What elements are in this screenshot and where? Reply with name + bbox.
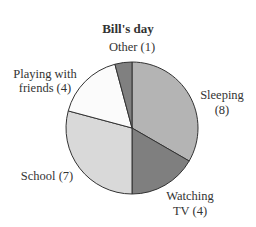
label-playing-line1: Playing with [10, 67, 80, 81]
label-other: Other (1) [97, 40, 167, 54]
label-watching-line1: Watching [160, 189, 220, 203]
label-school: School (7) [14, 169, 80, 183]
label-playing-line2: friends (4) [10, 81, 80, 95]
label-sleeping-line2: (8) [194, 103, 250, 117]
pie-chart: Bill's day Other (1) Playing with friend… [0, 0, 256, 227]
label-watching-line2: TV (4) [160, 204, 220, 218]
label-sleeping-line1: Sleeping [194, 88, 250, 102]
